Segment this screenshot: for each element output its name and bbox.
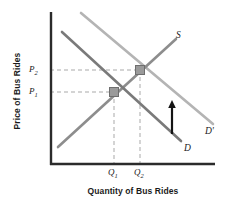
equilibrium-marker-2 xyxy=(136,66,145,75)
y-tick-label-p1: P1 xyxy=(29,86,38,98)
y-tick-label-p2: P2 xyxy=(29,64,38,76)
x-tick-label-q2: Q2 xyxy=(134,167,144,179)
x-axis-title: Quantity of Bus Rides xyxy=(50,186,216,196)
supply-demand-chart: Price of Bus Rides Quantity of Bus Rides… xyxy=(0,0,232,207)
curve-label-supply: S xyxy=(176,30,181,40)
x-tick-label-q1: Q1 xyxy=(108,167,118,179)
y-axis-title: Price of Bus Rides xyxy=(12,43,22,139)
curves xyxy=(58,13,213,147)
x-tick-q2-subscript: 2 xyxy=(141,172,144,179)
y-tick-p2-subscript: 2 xyxy=(35,69,38,76)
curve-label-demand: D xyxy=(184,143,191,153)
curve-label-demand-shifted: D' xyxy=(205,126,214,136)
x-tick-q1-subscript: 1 xyxy=(115,172,118,179)
equilibrium-marker-1 xyxy=(110,88,119,97)
y-tick-p1-subscript: 1 xyxy=(35,91,38,98)
